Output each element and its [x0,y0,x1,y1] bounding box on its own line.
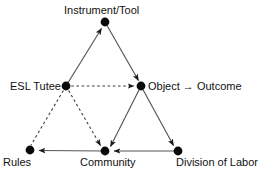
edge-object-to-division [141,86,174,146]
node-label-object: Object → Outcome [148,80,242,92]
node-label-subject: ESL Tutee [10,80,61,92]
activity-theory-diagram: Instrument/Tool ESL Tutee Object → Outco… [0,0,264,172]
node-subject [62,82,71,91]
node-label-division: Division of Labor [176,156,258,168]
node-label-rules: Rules [3,156,31,168]
node-rules [26,146,35,155]
edge-subject-to-rules [31,86,66,145]
node-label-instrument: Instrument/Tool [64,4,139,16]
edge-instrument-to-object [105,22,139,81]
edge-layer-dashed [31,86,134,146]
edge-subject-to-instrument [66,29,102,87]
edge-object-to-community [111,86,142,147]
node-community [101,147,110,156]
node-division [174,147,183,156]
node-instrument [101,18,110,27]
node-object [137,82,146,91]
edge-community-to-rules [39,151,105,152]
node-label-community: Community [80,156,136,168]
edge-subject-to-community [66,86,101,146]
